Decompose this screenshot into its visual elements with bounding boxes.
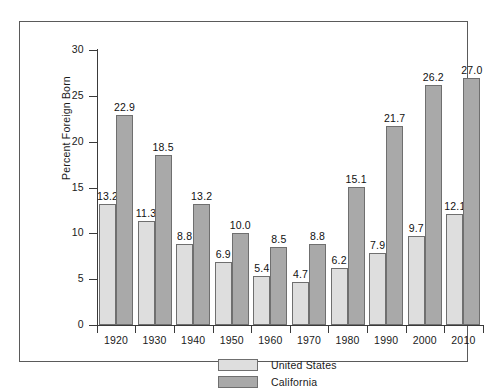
bar-united-states-1960	[253, 276, 270, 326]
x-tick-label: 1950	[210, 334, 254, 346]
y-tick-mark	[89, 279, 97, 280]
y-tick-mark	[89, 233, 97, 234]
bar-california-1920	[116, 115, 133, 325]
y-axis-line	[97, 49, 98, 326]
x-tick-label: 2000	[403, 334, 447, 346]
legend-item: California	[218, 373, 337, 390]
bar-value-label: 21.7	[375, 112, 415, 124]
x-tick-mark	[328, 326, 329, 333]
legend-label: United States	[271, 359, 337, 371]
y-tick-label: 5	[50, 272, 84, 284]
y-tick-label: 20	[50, 135, 84, 147]
bar-california-1950	[232, 233, 249, 325]
bar-united-states-1980	[331, 268, 348, 325]
legend-swatch-icon	[218, 376, 258, 388]
bar-united-states-1930	[138, 221, 155, 325]
bar-united-states-2010	[446, 214, 463, 325]
x-tick-mark	[135, 326, 136, 333]
bar-california-1960	[270, 247, 287, 325]
x-tick-mark	[213, 326, 214, 333]
y-tick-label: 25	[50, 89, 84, 101]
x-tick-mark	[97, 326, 98, 333]
y-tick-mark	[89, 96, 97, 97]
x-tick-label: 1960	[248, 334, 292, 346]
bar-california-1930	[155, 155, 172, 325]
bar-united-states-2000	[408, 236, 425, 325]
x-tick-mark	[174, 326, 175, 333]
x-tick-mark	[367, 326, 368, 333]
x-tick-mark	[406, 326, 407, 333]
x-tick-label: 1990	[364, 334, 408, 346]
x-tick-mark	[290, 326, 291, 333]
x-tick-label: 1970	[287, 334, 331, 346]
chart-legend: United StatesCalifornia	[218, 356, 337, 390]
bar-value-label: 22.9	[105, 101, 145, 113]
bar-california-2010	[463, 78, 480, 326]
y-tick-label: 0	[50, 318, 84, 330]
bar-california-1990	[386, 126, 403, 325]
bar-united-states-1940	[176, 244, 193, 325]
bar-value-label: 13.2	[182, 190, 222, 202]
legend-item: United States	[218, 356, 337, 373]
x-tick-mark	[251, 326, 252, 333]
legend-swatch-icon	[218, 359, 258, 371]
bar-united-states-1970	[292, 282, 309, 325]
bar-value-label: 8.8	[298, 230, 338, 242]
y-tick-label: 15	[50, 181, 84, 193]
y-tick-mark	[89, 188, 97, 189]
chart-frame: Percent Foreign Born 051015202530 192019…	[19, 21, 468, 362]
bar-united-states-1990	[369, 253, 386, 325]
x-tick-mark	[483, 326, 484, 333]
bar-california-1940	[193, 204, 210, 325]
y-tick-label: 30	[50, 43, 84, 55]
bar-value-label: 18.5	[143, 141, 183, 153]
bar-value-label: 10.0	[220, 219, 260, 231]
x-tick-label: 1980	[326, 334, 370, 346]
x-tick-label: 1930	[133, 334, 177, 346]
bar-united-states-1920	[99, 204, 116, 325]
y-tick-mark	[89, 142, 97, 143]
y-tick-mark	[89, 50, 97, 51]
bar-california-1970	[309, 244, 326, 325]
bar-california-1980	[348, 187, 365, 325]
x-tick-label: 2010	[441, 334, 485, 346]
x-tick-label: 1940	[171, 334, 215, 346]
bar-value-label: 27.0	[452, 64, 487, 76]
x-tick-mark	[444, 326, 445, 333]
bar-value-label: 15.1	[336, 173, 376, 185]
bar-value-label: 8.5	[259, 233, 299, 245]
y-tick-label: 10	[50, 226, 84, 238]
bar-california-2000	[425, 85, 442, 325]
legend-label: California	[271, 376, 317, 388]
x-tick-label: 1920	[94, 334, 138, 346]
bar-united-states-1950	[215, 262, 232, 325]
bar-value-label: 26.2	[413, 71, 453, 83]
